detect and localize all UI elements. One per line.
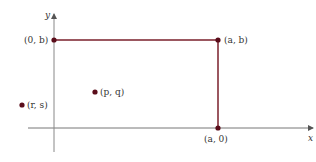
point-a-b	[215, 37, 220, 42]
label-0-b: (0, b)	[24, 35, 48, 45]
point-a-0	[215, 125, 220, 130]
point-p-q	[92, 89, 97, 94]
x-axis-label: x	[308, 133, 313, 143]
label-a-0: (a, 0)	[204, 134, 228, 144]
label-p-q: (p, q)	[100, 87, 124, 97]
y-axis-label: y	[44, 10, 51, 20]
point-0-b	[51, 37, 56, 42]
point-r-s	[19, 102, 24, 107]
label-r-s: (r, s)	[27, 100, 48, 110]
coordinate-diagram: y x (0, b) (a, b) (a, 0) (p, q) (r, s)	[0, 0, 316, 162]
label-a-b: (a, b)	[224, 35, 248, 45]
